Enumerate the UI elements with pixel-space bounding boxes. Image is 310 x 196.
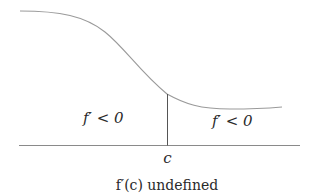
point-c-label: c	[163, 149, 172, 167]
left-derivative-label: f′ < 0	[82, 109, 124, 127]
caption: f′(c) undefined	[116, 177, 218, 193]
curve-right-branch	[167, 94, 282, 109]
right-derivative-label: f′ < 0	[211, 112, 253, 130]
diagram-canvas: f′ < 0 f′ < 0 c f′(c) undefined	[0, 0, 310, 196]
curve-left-branch	[20, 11, 167, 94]
